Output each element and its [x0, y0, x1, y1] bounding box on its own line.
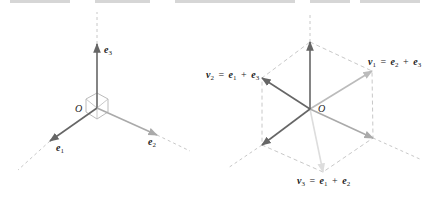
left-panel	[18, 12, 190, 170]
axis-guide-e1	[228, 145, 262, 168]
label-e1: e1	[56, 143, 64, 155]
label-e3: e3	[104, 45, 112, 57]
axis-guide-e1	[18, 141, 50, 170]
right-panel	[228, 12, 422, 172]
label-v3: v3 = e1 + e2	[297, 176, 350, 188]
vector-diagram-svg	[0, 0, 430, 197]
axis-guide-e2	[373, 138, 422, 160]
vector-v3	[310, 109, 323, 172]
label-e2: e2	[148, 137, 156, 149]
label-v1: v1 = e2 + e3	[368, 57, 421, 69]
vector-e1	[262, 109, 310, 145]
vector-e2	[97, 108, 157, 135]
vector-e1	[50, 108, 97, 141]
vector-v2	[262, 78, 310, 109]
label-v2: v2 = e1 + e3	[206, 70, 259, 82]
axis-guide-e2	[157, 135, 190, 151]
figure-canvas: e3 O e1 e2 O v1 = e2 + e3 v2 = e1 + e3 v…	[0, 0, 430, 197]
origin-label: O	[75, 104, 82, 114]
origin-label: O	[318, 104, 325, 114]
